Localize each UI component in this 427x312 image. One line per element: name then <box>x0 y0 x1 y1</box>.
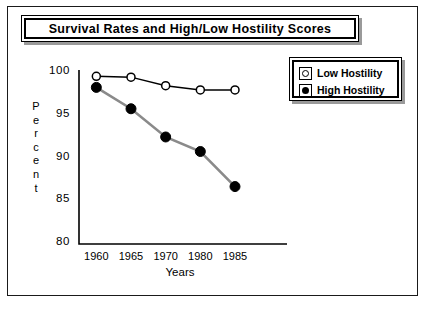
filled-circle-icon-1985[interactable] <box>230 182 240 192</box>
open-circle-icon-1980[interactable] <box>196 86 204 94</box>
y-axis-label-letter: r <box>34 127 38 141</box>
x-tick-label: 1985 <box>215 250 255 262</box>
open-circle-icon-1970[interactable] <box>162 82 170 90</box>
y-tick-label: 80 <box>42 235 70 247</box>
y-axis-label-letter: c <box>33 141 39 155</box>
y-axis-label-letter: e <box>33 114 39 128</box>
open-circle-icon-1960[interactable] <box>92 72 100 80</box>
data-series-group <box>91 72 240 191</box>
x-axis-label: Years <box>120 266 240 278</box>
filled-circle-icon-1980[interactable] <box>195 147 205 157</box>
y-axis-label-letter: P <box>32 100 39 114</box>
filled-circle-icon-1970[interactable] <box>161 132 171 142</box>
y-tick-label: 95 <box>42 107 70 119</box>
filled-circle-icon-1965[interactable] <box>126 104 136 114</box>
y-tick-label: 85 <box>42 192 70 204</box>
plot-area: 10095908580 Percent 19601965197019801985… <box>0 0 427 312</box>
y-axis-label-letter: e <box>33 154 39 168</box>
y-tick-label: 100 <box>42 64 70 76</box>
open-circle-icon-1965[interactable] <box>127 73 135 81</box>
filled-circle-icon-1960[interactable] <box>91 82 101 92</box>
open-circle-icon-1985[interactable] <box>231 86 239 94</box>
y-axis-label-letter: t <box>34 182 37 196</box>
y-axis-label: Percent <box>30 100 42 195</box>
y-axis-label-letter: n <box>33 168 39 182</box>
axes-group <box>74 70 287 249</box>
y-tick-label: 90 <box>42 150 70 162</box>
